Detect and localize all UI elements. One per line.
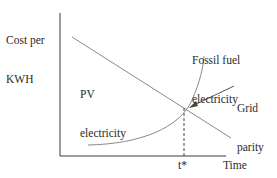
fossil-label-line2: electricity: [192, 93, 240, 106]
pv-label-line2: electricity: [80, 127, 126, 140]
grid-parity-label: Grid parity: [237, 76, 264, 167]
fossil-fuel-label: Fossil fuel electricity: [192, 28, 240, 119]
t-star-label: t*: [178, 159, 187, 172]
grid-label-line1: Grid: [237, 102, 264, 115]
y-axis-label-line2: KWH: [6, 73, 45, 86]
pv-label: PV electricity: [80, 62, 126, 153]
y-axis-label-line1: Cost per: [6, 34, 45, 47]
grid-label-line2: parity: [237, 141, 264, 154]
fossil-label-line1: Fossil fuel: [192, 54, 240, 67]
pv-label-line1: PV: [80, 88, 126, 101]
y-axis-label: Cost per KWH: [6, 8, 45, 99]
x-axis-label: Time: [223, 159, 247, 172]
